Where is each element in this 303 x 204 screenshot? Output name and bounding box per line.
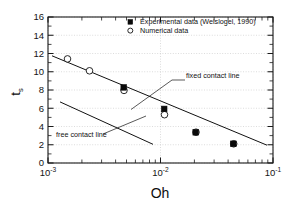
- data-point: [64, 56, 71, 63]
- x-tick-label: 10-2: [152, 166, 169, 178]
- data-point: [86, 68, 93, 75]
- annotation-free-contact-line: free contact line: [56, 130, 107, 139]
- chart-svg: 0 2 4 6 8 10 12 14 16 10-3 10-2 10-1 Oh …: [0, 0, 303, 204]
- fixed-leader: [131, 80, 172, 110]
- chart-figure: 0 2 4 6 8 10 12 14 16 10-3 10-2 10-1 Oh …: [0, 0, 303, 204]
- data-point: [121, 85, 127, 91]
- annotation-fixed-contact-line: fixed contact line: [186, 71, 240, 80]
- y-tick-label: 12: [33, 48, 44, 59]
- legend-marker-filled-square: [128, 20, 133, 25]
- x-tick-label: 10-1: [265, 166, 282, 178]
- y-tick-label: 2: [39, 139, 44, 150]
- y-tick-labels: 0 2 4 6 8 10 12 14 16: [33, 11, 44, 168]
- y-tick-label: 6: [39, 103, 44, 114]
- y-tick-label: 8: [39, 84, 44, 95]
- legend-label-experimental: Experimental data (Weislogel, 1990): [140, 17, 256, 26]
- data-point: [161, 111, 168, 118]
- chart-legend: Experimental data (Weislogel, 1990) Nume…: [128, 17, 256, 35]
- y-tick-label: 14: [33, 30, 44, 41]
- x-axis-title: Oh: [151, 185, 170, 201]
- data-point: [231, 141, 237, 147]
- data-point: [193, 130, 199, 136]
- y-tick-label: 10: [33, 66, 44, 77]
- x-tick-label: 10-3: [40, 166, 57, 178]
- legend-label-numerical: Numerical data: [140, 26, 188, 35]
- y-tick-label: 4: [39, 121, 44, 132]
- legend-marker-open-circle: [128, 28, 133, 33]
- grid-vertical: [48, 17, 273, 163]
- y-axis-title: ts: [8, 88, 25, 96]
- data-point: [161, 106, 167, 112]
- x-tick-labels: 10-3 10-2 10-1: [40, 166, 282, 178]
- y-tick-label: 16: [33, 11, 44, 22]
- annotation-leaders: [103, 80, 185, 134]
